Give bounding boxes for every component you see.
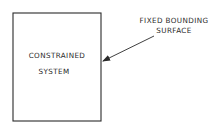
annotation-label-line2: SURFACE xyxy=(156,26,191,35)
pointer-arrow xyxy=(103,36,154,61)
box-label-line1: CONSTRAINED xyxy=(29,51,86,60)
box-label-line2: SYSTEM xyxy=(38,67,69,76)
diagram-canvas: CONSTRAINED SYSTEM FIXED BOUNDING SURFAC… xyxy=(0,0,223,128)
annotation-label-line1: FIXED BOUNDING xyxy=(140,16,209,25)
